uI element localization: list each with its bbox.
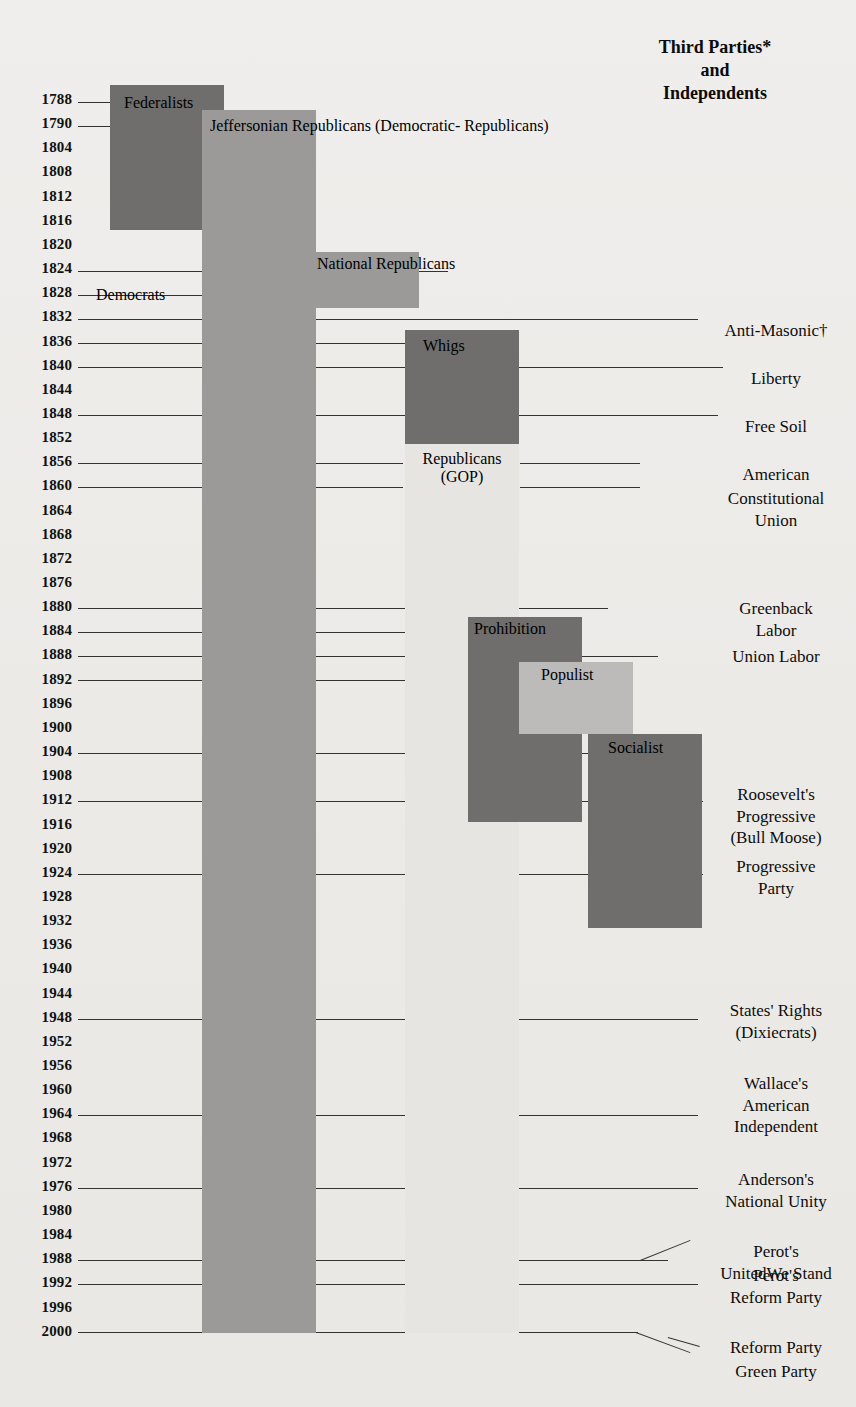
third-party-label-anti-masonic: Anti-Masonic† (700, 320, 852, 342)
third-party-label-free-soil: Free Soil (700, 416, 852, 438)
leader-line (78, 367, 723, 368)
leader-line (78, 1019, 698, 1020)
year-label-1912: 1912 (14, 791, 72, 808)
year-label-1880: 1880 (14, 598, 72, 615)
third-party-label-constitutional-union: Constitutional Union (700, 488, 852, 531)
year-label-1972: 1972 (14, 1154, 72, 1171)
year-label-1980: 1980 (14, 1202, 72, 1219)
year-label-1844: 1844 (14, 381, 72, 398)
year-label-1992: 1992 (14, 1274, 72, 1291)
party-label-federalists: Federalists (124, 94, 193, 112)
party-label-national-republicans: National Republicans (317, 255, 455, 273)
leader-line (78, 319, 698, 320)
leader-line (78, 415, 718, 416)
year-label-1816: 1816 (14, 212, 72, 229)
leader-line (78, 1115, 698, 1116)
third-party-label-wallace-s-american-independent: Wallace's American Independent (700, 1073, 852, 1138)
year-label-1956: 1956 (14, 1057, 72, 1074)
party-label-republicans-gop: Republicans (GOP) (405, 450, 519, 486)
year-label-1916: 1916 (14, 816, 72, 833)
party-label-jeffersonian-republicans: Jeffersonian Republicans (Democratic- Re… (210, 117, 549, 135)
party-label-democrats: Democrats (96, 286, 165, 304)
year-label-1892: 1892 (14, 671, 72, 688)
year-label-1820: 1820 (14, 236, 72, 253)
third-party-label-reform-party: Reform Party (700, 1337, 852, 1359)
year-label-1808: 1808 (14, 163, 72, 180)
year-label-1860: 1860 (14, 477, 72, 494)
year-label-1904: 1904 (14, 743, 72, 760)
third-parties-heading: Third Parties* and Independents (590, 36, 840, 105)
year-label-1824: 1824 (14, 260, 72, 277)
party-label-prohibition: Prohibition (474, 620, 546, 638)
year-label-1920: 1920 (14, 840, 72, 857)
year-label-1804: 1804 (14, 139, 72, 156)
party-label-whigs: Whigs (423, 337, 465, 355)
third-party-label-liberty: Liberty (700, 368, 852, 390)
year-label-1948: 1948 (14, 1009, 72, 1026)
year-label-1936: 1936 (14, 936, 72, 953)
party-box-jeffersonian-republicans (202, 110, 316, 280)
third-party-label-union-labor: Union Labor (700, 646, 852, 668)
year-label-1952: 1952 (14, 1033, 72, 1050)
third-party-label-american: American (700, 464, 852, 486)
third-party-label-green-party: Green Party (700, 1361, 852, 1383)
year-label-1940: 1940 (14, 960, 72, 977)
year-label-1884: 1884 (14, 622, 72, 639)
party-label-populist: Populist (541, 666, 593, 684)
year-label-1984: 1984 (14, 1226, 72, 1243)
year-label-1932: 1932 (14, 912, 72, 929)
year-label-1976: 1976 (14, 1178, 72, 1195)
year-label-1888: 1888 (14, 646, 72, 663)
year-label-1900: 1900 (14, 719, 72, 736)
year-label-1788: 1788 (14, 91, 72, 108)
year-label-2000: 2000 (14, 1323, 72, 1340)
year-label-1864: 1864 (14, 502, 72, 519)
leader-line (78, 1284, 698, 1285)
year-label-1964: 1964 (14, 1105, 72, 1122)
year-label-1828: 1828 (14, 284, 72, 301)
year-label-1836: 1836 (14, 333, 72, 350)
leader-line (78, 102, 112, 103)
party-label-socialist: Socialist (608, 739, 663, 757)
year-label-1840: 1840 (14, 357, 72, 374)
year-label-1896: 1896 (14, 695, 72, 712)
leader-line (78, 1332, 638, 1333)
party-box-republicans-gop (405, 444, 519, 1333)
year-label-1924: 1924 (14, 864, 72, 881)
third-party-label-progressive-party: Progressive Party (700, 856, 852, 899)
timeline-figure: Third Parties* and Independents 17881790… (0, 0, 856, 1407)
year-label-1968: 1968 (14, 1129, 72, 1146)
third-party-label-anderson-s-national-unity: Anderson's National Unity (700, 1169, 852, 1212)
year-label-1928: 1928 (14, 888, 72, 905)
year-label-1852: 1852 (14, 429, 72, 446)
year-label-1872: 1872 (14, 550, 72, 567)
third-party-label-roosevelt-s-progressive-bull-moose: Roosevelt's Progressive (Bull Moose) (700, 784, 852, 849)
third-party-label-perot-s-reform-party: Perot's Reform Party (700, 1265, 852, 1308)
year-label-1856: 1856 (14, 453, 72, 470)
party-box-socialist (588, 734, 702, 928)
leader-line (78, 1260, 668, 1261)
year-label-1944: 1944 (14, 985, 72, 1002)
year-label-1812: 1812 (14, 188, 72, 205)
year-label-1832: 1832 (14, 308, 72, 325)
party-box-democrats (202, 280, 316, 1333)
third-party-label-greenback-labor: Greenback Labor (700, 598, 852, 641)
leader-line (520, 463, 640, 464)
year-label-1960: 1960 (14, 1081, 72, 1098)
year-label-1868: 1868 (14, 526, 72, 543)
year-label-1790: 1790 (14, 115, 72, 132)
third-party-label-states-rights-dixiecrats: States' Rights (Dixiecrats) (700, 1000, 852, 1043)
leader-line (78, 1188, 698, 1189)
year-label-1876: 1876 (14, 574, 72, 591)
year-label-1996: 1996 (14, 1299, 72, 1316)
year-label-1908: 1908 (14, 767, 72, 784)
year-label-1848: 1848 (14, 405, 72, 422)
year-label-1988: 1988 (14, 1250, 72, 1267)
leader-line (78, 608, 608, 609)
leader-line (520, 487, 640, 488)
